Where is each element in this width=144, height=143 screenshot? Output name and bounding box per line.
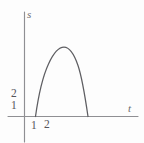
plot-canvas [0,0,144,143]
x-tick-label-1: 1 [31,120,37,132]
y-axis-label: s [27,9,31,20]
y-tick-label-1: 1 [11,100,17,112]
graph-figure: s t 2 1 1 2 [0,0,144,143]
y-tick-label-2: 2 [11,88,17,100]
x-axis-label: t [128,103,131,114]
parabolic-curve [36,47,89,116]
x-tick-label-2: 2 [44,119,50,131]
